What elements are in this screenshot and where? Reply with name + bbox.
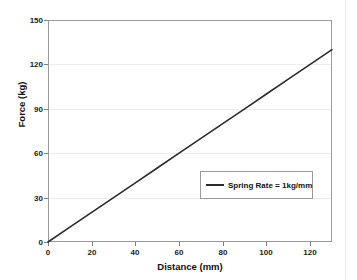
x-axis-tick-label: 80 xyxy=(208,248,238,257)
series-plot xyxy=(48,20,332,242)
chart-legend: Spring Rate = 1kg/mm xyxy=(200,171,313,199)
x-axis-tick-label: 120 xyxy=(295,248,325,257)
x-axis-tick-mark xyxy=(223,242,224,246)
x-axis-tick-label: 20 xyxy=(77,248,107,257)
chart-figure: Force (kg) 0306090120150 020406080100120… xyxy=(0,0,357,280)
y-axis-tick-label: 0 xyxy=(39,238,43,247)
y-axis-tick-label: 150 xyxy=(30,16,43,25)
x-axis-tick-mark xyxy=(310,242,311,246)
x-axis-tick-mark xyxy=(266,242,267,246)
y-axis-tick-label: 30 xyxy=(34,194,43,203)
plot-area xyxy=(48,20,332,242)
legend-item: Spring Rate = 1kg/mm xyxy=(206,181,312,190)
series-line-spring-rate xyxy=(48,50,332,242)
y-axis-tick-label: 60 xyxy=(34,149,43,158)
x-axis-tick-label: 100 xyxy=(251,248,281,257)
legend-line-swatch-icon xyxy=(206,184,224,186)
x-axis-title: Distance (mm) xyxy=(48,261,332,272)
x-axis-tick-label: 0 xyxy=(33,248,63,257)
y-axis-title: Force (kg) xyxy=(16,45,27,165)
legend-item-label: Spring Rate = 1kg/mm xyxy=(228,181,312,190)
figure-right-rule xyxy=(345,0,346,280)
x-axis-tick-label: 60 xyxy=(164,248,194,257)
y-axis-tick-label: 90 xyxy=(34,105,43,114)
y-axis-tick-label: 120 xyxy=(30,60,43,69)
x-axis-tick-mark xyxy=(135,242,136,246)
x-axis-tick-mark xyxy=(179,242,180,246)
x-axis-tick-label: 40 xyxy=(120,248,150,257)
x-axis-tick-mark xyxy=(92,242,93,246)
